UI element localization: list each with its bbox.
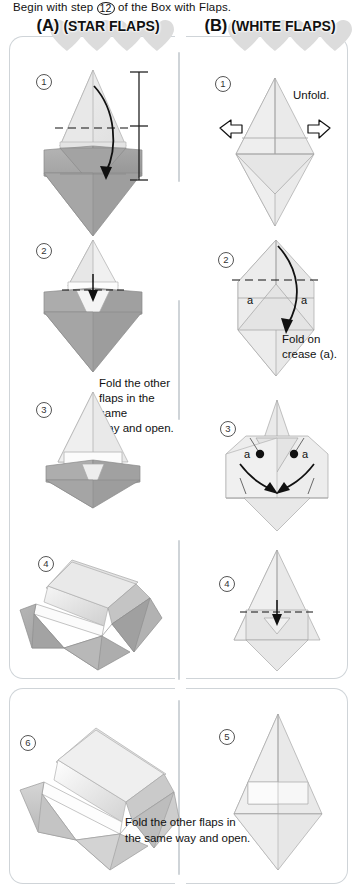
diagram-b-step-3: a a <box>216 398 338 533</box>
diagram-b-step-5 <box>222 712 334 872</box>
page-caption: Begin with step 12 of the Box with Flaps… <box>13 1 231 14</box>
svg-text:a: a <box>301 294 308 306</box>
caption-step-badge: 12 <box>97 2 115 15</box>
diagram-b-step-4 <box>222 548 332 673</box>
header-subtitle-a: (STAR FLAPS) <box>63 18 159 34</box>
header-title-b: (B) (WHITE FLAPS) <box>192 16 348 35</box>
note-b-step-2: Fold on crease (a). <box>282 332 337 362</box>
column-divider-lower <box>178 540 180 680</box>
header-letter-b: (B) <box>204 16 227 34</box>
caption-before: Begin with step <box>13 1 93 13</box>
header-subtitle-b: (WHITE FLAPS) <box>231 18 335 34</box>
diagram-a-step-2 <box>40 238 146 374</box>
diagram-b-step-1 <box>222 76 328 228</box>
header-letter-a: (A) <box>36 16 59 34</box>
svg-text:a: a <box>247 294 254 306</box>
svg-text:a: a <box>244 448 251 460</box>
column-divider-top <box>178 52 180 182</box>
header-title-a: (A) (STAR FLAPS) <box>18 16 178 35</box>
measurement-bar-a1 <box>128 70 150 182</box>
caption-after: of the Box with Flaps. <box>118 1 231 13</box>
diagram-bottom-step-6 <box>14 722 179 872</box>
note-bottom-line1: Fold the other flaps in <box>125 815 236 830</box>
svg-text:a: a <box>302 448 309 460</box>
header-white-flaps: (B) (WHITE FLAPS) <box>192 16 348 50</box>
header-star-flaps: (A) (STAR FLAPS) <box>18 16 178 50</box>
diagram-a-step-4 <box>12 552 172 672</box>
instruction-sheet: Begin with step 12 of the Box with Flaps… <box>0 0 352 889</box>
diagram-a-step-3 <box>40 390 146 510</box>
